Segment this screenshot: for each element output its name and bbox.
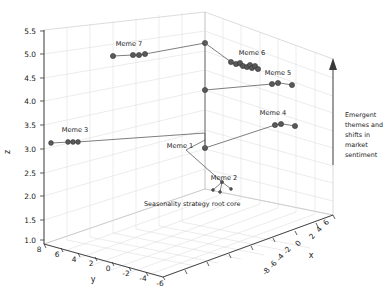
marker[interactable]: [130, 52, 135, 57]
marker[interactable]: [272, 122, 277, 127]
x-axis-ticks: -8 -6 -4 -2 0 2 4 6 x: [185, 215, 335, 277]
emergent-note-line-5: sentiment: [345, 151, 378, 159]
series-label-meme4: Meme 4: [260, 109, 287, 117]
series-label-meme6: Meme 6: [239, 49, 266, 57]
series-label-meme1: Meme 1: [167, 142, 194, 150]
emergent-note-line-1: Emergent: [345, 111, 377, 119]
emergent-note-line-2: themes and: [345, 121, 383, 129]
emergent-note-line-3: shifts in: [345, 131, 370, 139]
series-label-meme5: Meme 5: [265, 69, 292, 77]
z-tick-1: 5.0: [24, 50, 36, 59]
series-meme5[interactable]: Meme 5: [202, 69, 294, 93]
y-tick-6: -4: [139, 274, 147, 283]
x-tick-7: 6: [321, 217, 331, 227]
seasonality-note-text: Seasonality strategy root core: [144, 200, 240, 208]
z-tick-7: 2.0: [24, 192, 36, 201]
marker[interactable]: [228, 59, 233, 64]
marker[interactable]: [136, 52, 141, 57]
series-meme4[interactable]: Meme 4: [202, 109, 297, 151]
x-axis-title: x: [309, 251, 314, 260]
annotation-emergent: Emergent themes and shifts in market sen…: [329, 58, 383, 165]
marker[interactable]: [269, 81, 274, 86]
marker[interactable]: [110, 53, 115, 58]
y-tick-4: 0: [106, 264, 111, 273]
marker[interactable]: [202, 87, 207, 92]
axis-lines: [44, 30, 333, 277]
y-axis-title: y: [91, 275, 96, 284]
emergent-arrow-head: [329, 58, 337, 70]
y-axis-ticks: 8 6 4 2 0 -2 -4 -6 y: [37, 244, 165, 288]
marker[interactable]: [255, 66, 260, 71]
series-meme6[interactable]: Meme 6: [205, 43, 265, 72]
z-tick-5: 3.0: [24, 145, 36, 154]
meme2-spoke-3: [222, 182, 231, 189]
marker[interactable]: [212, 189, 215, 192]
marker[interactable]: [230, 188, 233, 191]
chart-figure: 5.5 5.0 4.5 4.0 3.5 3.0 2.5 2.0 1.5 1.0 …: [0, 0, 386, 298]
series-label-meme7: Meme 7: [116, 40, 143, 48]
marker[interactable]: [49, 141, 54, 146]
annotation-seasonality: Seasonality strategy root core: [144, 200, 240, 208]
marker[interactable]: [76, 140, 81, 145]
y-tick-1: 6: [55, 250, 60, 259]
series-label-meme2: Meme 2: [211, 174, 238, 182]
marker[interactable]: [289, 82, 294, 87]
x-tick-4: 0: [293, 238, 303, 248]
marker[interactable]: [278, 121, 283, 126]
marker[interactable]: [292, 123, 297, 128]
y-tick-0: 8: [37, 245, 42, 254]
x-tick-3: -2: [281, 245, 293, 256]
z-tick-0: 5.5: [24, 27, 36, 36]
z-tick-2: 4.5: [24, 74, 36, 83]
z-tick-9: 1.0: [24, 236, 36, 245]
x-axis: [163, 215, 333, 277]
scatter3d-plot: 5.5 5.0 4.5 4.0 3.5 3.0 2.5 2.0 1.5 1.0 …: [0, 0, 386, 298]
marker[interactable]: [142, 51, 147, 56]
marker[interactable]: [275, 80, 280, 85]
x-tick-5: 2: [307, 232, 317, 241]
marker[interactable]: [71, 140, 76, 145]
z-tick-4: 3.5: [24, 121, 36, 130]
series-meme2[interactable]: Meme 2: [186, 150, 237, 193]
z-axis-title: z: [3, 150, 12, 154]
series-label-meme3: Meme 3: [62, 126, 89, 134]
z-axis-ticks: 5.5 5.0 4.5 4.0 3.5 3.0 2.5 2.0 1.5 1.0 …: [3, 27, 44, 245]
y-tick-5: -2: [122, 269, 129, 278]
y-tick-3: 2: [89, 259, 94, 268]
z-tick-6: 2.5: [24, 169, 36, 178]
x-tick-6: 4: [314, 224, 324, 234]
marker[interactable]: [219, 191, 222, 194]
z-tick-8: 1.5: [24, 216, 36, 225]
y-tick-7: -6: [156, 279, 164, 288]
emergent-note-line-4: market: [345, 141, 368, 149]
z-tick-3: 4.0: [24, 97, 36, 106]
series-meme4-line: [205, 124, 295, 148]
marker[interactable]: [66, 140, 71, 145]
y-tick-2: 4: [72, 255, 77, 264]
